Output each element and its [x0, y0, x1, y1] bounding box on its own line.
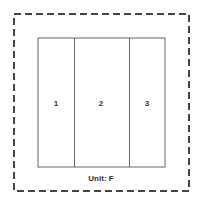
- panel-2-label: 2: [99, 99, 104, 108]
- panel-1-label: 1: [54, 99, 59, 108]
- panel-3-label: 3: [145, 99, 150, 108]
- unit-label: Unit: F: [88, 174, 113, 183]
- unit-diagram: 1 2 3 Unit: F: [0, 0, 201, 205]
